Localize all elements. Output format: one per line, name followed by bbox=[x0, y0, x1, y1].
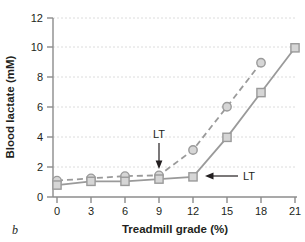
x-tick-label-3: 3 bbox=[88, 205, 94, 217]
data-point-trained-0 bbox=[53, 181, 61, 189]
data-point-untrained-12 bbox=[189, 146, 197, 154]
y-tick-label-12: 12 bbox=[31, 12, 43, 24]
data-point-untrained-18 bbox=[257, 59, 265, 67]
data-point-trained-9 bbox=[155, 175, 163, 183]
data-point-trained-21 bbox=[291, 44, 299, 52]
data-point-untrained-15 bbox=[223, 103, 231, 111]
x-tick-label-6: 6 bbox=[122, 205, 128, 217]
data-point-trained-6 bbox=[121, 177, 129, 185]
lt-label-trained: LT bbox=[243, 170, 255, 182]
blood-lactate-treadmill-chart: 12 10 8 6 4 2 0 0 3 6 9 12 15 18 21 Trea… bbox=[0, 0, 305, 242]
y-tick-label-2: 2 bbox=[37, 161, 43, 173]
y-tick-label-6: 6 bbox=[37, 101, 43, 113]
y-tick-label-10: 10 bbox=[31, 41, 43, 53]
y-tick-label-8: 8 bbox=[37, 71, 43, 83]
x-axis-title: Treadmill grade (%) bbox=[122, 223, 228, 235]
y-axis-title: Blood lactate (mM) bbox=[4, 55, 16, 158]
data-point-trained-15 bbox=[223, 133, 231, 141]
x-tick-label-9: 9 bbox=[156, 205, 162, 217]
data-point-trained-3 bbox=[87, 177, 95, 185]
data-point-trained-12 bbox=[189, 173, 197, 181]
data-point-trained-18 bbox=[257, 88, 265, 96]
lt-label-untrained: LT bbox=[153, 128, 165, 140]
x-tick-label-21: 21 bbox=[289, 205, 301, 217]
x-tick-label-15: 15 bbox=[221, 205, 233, 217]
y-tick-label-4: 4 bbox=[37, 131, 43, 143]
panel-label: b bbox=[12, 223, 18, 237]
x-tick-label-18: 18 bbox=[255, 205, 267, 217]
x-tick-label-0: 0 bbox=[54, 205, 60, 217]
x-tick-label-12: 12 bbox=[187, 205, 199, 217]
y-tick-label-0: 0 bbox=[37, 191, 43, 203]
